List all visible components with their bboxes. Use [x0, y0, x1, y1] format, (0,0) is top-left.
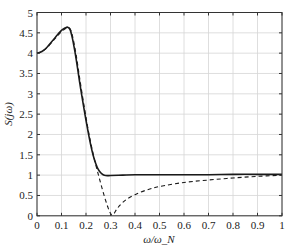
y-axis-label: S(jω) — [2, 102, 15, 126]
y-tick-label: 5 — [28, 7, 34, 19]
y-tick-label: 0 — [28, 210, 34, 222]
y-tick-label: 2 — [28, 128, 34, 140]
y-tick-label: 4.5 — [19, 27, 33, 39]
y-tick-label: 3.5 — [19, 67, 33, 79]
y-tick-label: 3 — [28, 88, 34, 100]
chart: 00.10.20.30.40.50.60.70.80.91 00.511.522… — [0, 0, 288, 246]
x-axis-label: ω/ω_N — [143, 233, 175, 245]
x-tick-label: 0.4 — [128, 219, 142, 231]
y-tick-label: 1.5 — [19, 149, 33, 161]
y-tick-label: 1 — [28, 169, 34, 181]
x-tick-label: 0.9 — [251, 219, 265, 231]
x-tick-label: 0.6 — [177, 219, 191, 231]
y-tick-label: 0.5 — [19, 189, 33, 201]
x-tick-label: 0.1 — [55, 219, 69, 231]
x-tick-label: 0.2 — [79, 219, 93, 231]
x-tick-label: 0.7 — [202, 219, 216, 231]
x-tick-label: 1 — [279, 219, 285, 231]
x-tick-label: 0.3 — [104, 219, 118, 231]
x-tick-label: 0.5 — [153, 219, 167, 231]
y-tick-label: 2.5 — [19, 108, 33, 120]
x-tick-label: 0 — [34, 219, 40, 231]
x-tick-label: 0.8 — [226, 219, 240, 231]
y-tick-label: 4 — [28, 47, 34, 59]
